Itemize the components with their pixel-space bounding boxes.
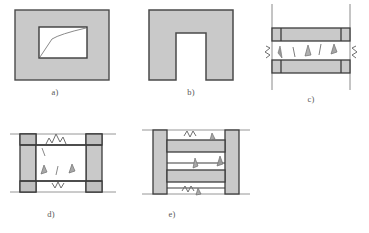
beam-stub-bottom-left bbox=[20, 181, 36, 192]
portal-wall-outline bbox=[149, 10, 233, 80]
beam-stub-top-left bbox=[20, 134, 36, 145]
crack-mark bbox=[331, 44, 337, 54]
figure-sheet: a) b) bbox=[0, 0, 369, 233]
panel-b bbox=[148, 9, 234, 81]
panel-e bbox=[140, 118, 252, 206]
panel-e-drawing bbox=[140, 118, 252, 206]
crack-mark bbox=[210, 133, 215, 140]
break-symbol-right bbox=[352, 46, 357, 58]
crack-mark bbox=[278, 46, 282, 58]
panel-c-drawing bbox=[255, 2, 367, 92]
panel-b-label: b) bbox=[176, 87, 206, 97]
upper-beam-band bbox=[272, 28, 350, 41]
break-symbol-left bbox=[265, 46, 270, 58]
panel-b-drawing bbox=[148, 9, 234, 81]
panel-c-label: c) bbox=[296, 94, 326, 104]
panel-a bbox=[14, 9, 110, 81]
infill-panel bbox=[36, 145, 86, 181]
column-right bbox=[225, 130, 239, 194]
beam-stub-bottom-right bbox=[86, 181, 102, 192]
panel-c bbox=[255, 2, 367, 92]
crack-mark bbox=[293, 47, 295, 57]
panel-d bbox=[8, 122, 118, 204]
zigzag-crack-top bbox=[184, 131, 196, 137]
beam-band-upper bbox=[167, 140, 225, 152]
crack-mark bbox=[319, 44, 321, 55]
panel-d-label: d) bbox=[36, 209, 66, 219]
panel-d-drawing bbox=[8, 122, 118, 204]
wall-opening bbox=[39, 27, 87, 58]
panel-e-label: e) bbox=[157, 209, 187, 219]
beam-band-lower bbox=[167, 170, 225, 182]
crack-mark bbox=[196, 188, 201, 195]
panel-a-drawing bbox=[14, 9, 110, 81]
beam-stub-top-right bbox=[86, 134, 102, 145]
zigzag-crack-top bbox=[46, 134, 66, 144]
zigzag-crack-bottom bbox=[182, 186, 194, 192]
crack-mark bbox=[217, 156, 223, 166]
lower-beam-band bbox=[272, 60, 350, 73]
crack-mark bbox=[305, 45, 311, 56]
zigzag-crack-bottom bbox=[52, 182, 64, 188]
column-left bbox=[153, 130, 167, 194]
panel-a-label: a) bbox=[40, 87, 70, 97]
